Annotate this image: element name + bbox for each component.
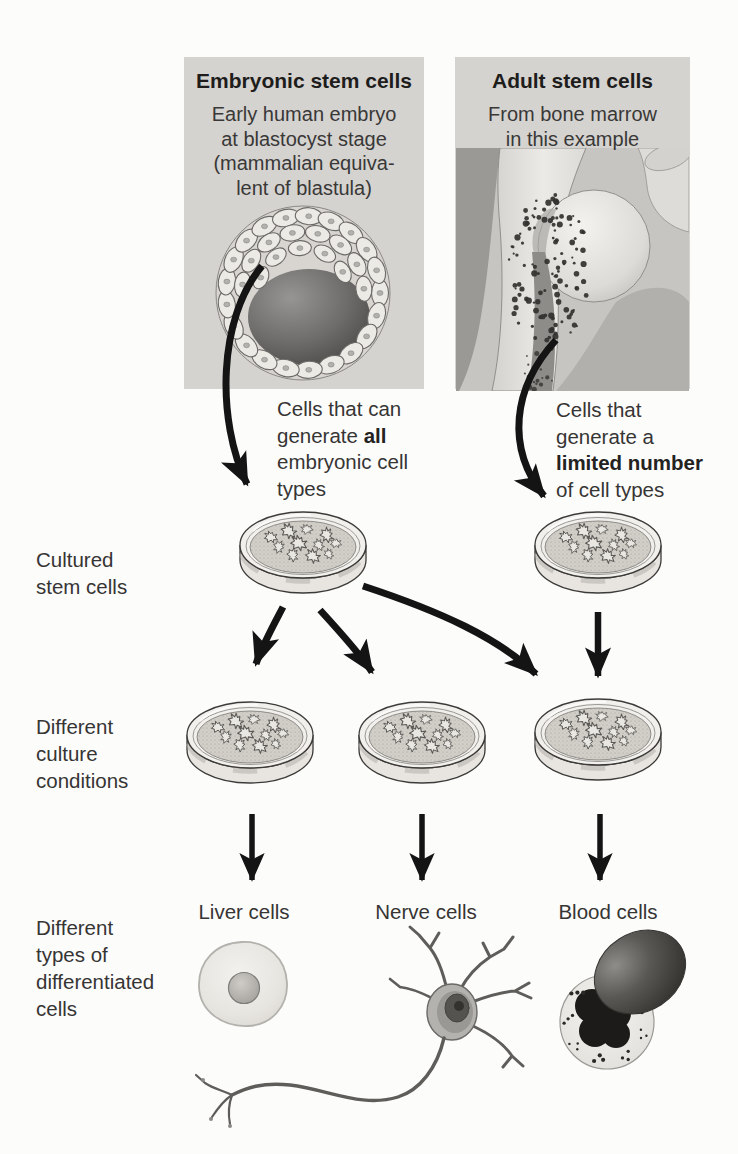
label-line: stem cells: [36, 573, 127, 600]
note-line: embryonic cell: [277, 449, 467, 476]
petri-dish-condition-3: [535, 699, 661, 780]
adult-panel-subtitle: From bone marrow in this example: [455, 102, 690, 151]
arrow-dish-to-condition-1: [256, 607, 283, 664]
blood-cells-illustration: [560, 913, 701, 1069]
note-line: Cells that: [556, 397, 736, 424]
subtitle-line: at blastocyst stage: [184, 127, 424, 152]
label-cultured-stem-cells: Cultured stem cells: [36, 546, 127, 600]
subtitle-line: in this example: [455, 127, 690, 152]
subtitle-line: lent of blastula): [184, 176, 424, 201]
label-line: differentiated: [36, 968, 154, 995]
label-nerve-cells: Nerve cells: [366, 900, 486, 924]
note-line: Cells that can: [277, 396, 467, 423]
panel-adult-text: Adult stem cells From bone marrow in thi…: [455, 68, 690, 151]
label-line: Cultured: [36, 546, 127, 573]
label-line: types of: [36, 941, 154, 968]
subtitle-line: Early human embryo: [184, 102, 424, 127]
note-bold-all: all: [364, 424, 387, 447]
note-line: of cell types: [556, 477, 736, 504]
embryonic-panel-title: Embryonic stem cells: [184, 68, 424, 93]
panel-embryonic-text: Embryonic stem cells Early human embryo …: [184, 68, 424, 200]
bone-illustration: [456, 138, 695, 392]
note-line: limited number: [556, 450, 736, 477]
label-different-culture-conditions: Different culture conditions: [36, 713, 128, 794]
label-line: cells: [36, 995, 154, 1022]
label-liver-cells: Liver cells: [186, 900, 302, 924]
label-line: Different: [36, 914, 154, 941]
embryonic-panel-subtitle: Early human embryo at blastocyst stage (…: [184, 102, 424, 200]
note-bold-limited-number: limited number: [556, 451, 703, 474]
note-line: generate a: [556, 424, 736, 451]
note-line: generate all: [277, 423, 467, 450]
stem-cell-figure: Embryonic stem cells Early human embryo …: [0, 0, 738, 1154]
liver-cell-illustration: [199, 942, 287, 1026]
subtitle-line: From bone marrow: [455, 102, 690, 127]
subtitle-line: (mammalian equiva-: [184, 151, 424, 176]
arrow-dish-to-condition-3: [363, 586, 536, 674]
petri-dish-condition-1: [187, 702, 313, 783]
adult-panel-title: Adult stem cells: [455, 68, 690, 93]
label-line: Different: [36, 713, 128, 740]
label-blood-cells: Blood cells: [546, 900, 670, 924]
petri-dish-adult: [535, 512, 661, 593]
label-line: conditions: [36, 767, 128, 794]
note-adult-cells: Cells that generate a limited number of …: [556, 397, 736, 503]
label-line: culture: [36, 740, 128, 767]
petri-dish-embryonic: [240, 512, 366, 593]
label-differentiated-cells: Different types of differentiated cells: [36, 914, 154, 1022]
arrow-dish-to-condition-2: [320, 610, 372, 672]
note-line: types: [277, 476, 467, 503]
note-embryonic-cells: Cells that can generate all embryonic ce…: [277, 396, 467, 502]
petri-dish-condition-2: [359, 702, 485, 783]
note-text: generate: [277, 424, 364, 447]
